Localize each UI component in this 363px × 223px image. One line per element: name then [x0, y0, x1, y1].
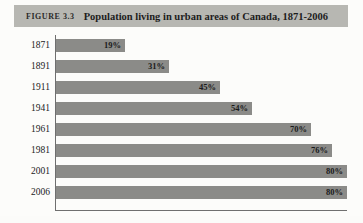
- category-label: 2006: [14, 182, 50, 203]
- bar: 70%: [56, 123, 311, 136]
- chart-plot-area: 187119%189131%191145%194154%196170%19817…: [14, 33, 348, 215]
- bar-value-label: 45%: [199, 81, 216, 94]
- bar-value-label: 80%: [326, 186, 343, 199]
- bar: 80%: [56, 186, 347, 199]
- bar-value-label: 70%: [290, 123, 307, 136]
- figure-number-label: FIGURE 3.3: [26, 12, 75, 21]
- bar: 76%: [56, 144, 332, 157]
- bar: 45%: [56, 81, 220, 94]
- bar-row: 200680%: [14, 182, 348, 203]
- bar-row: 189131%: [14, 56, 348, 77]
- figure-title: Population living in urban areas of Cana…: [84, 11, 328, 22]
- page-edge: [0, 216, 363, 223]
- bar-value-label: 31%: [148, 60, 165, 73]
- bar-track: 31%: [56, 60, 347, 73]
- bar-track: 70%: [56, 123, 347, 136]
- bar-row: 200180%: [14, 161, 348, 182]
- bar-track: 80%: [56, 186, 347, 199]
- bar-track: 80%: [56, 165, 347, 178]
- bar-row: 198176%: [14, 140, 348, 161]
- bar-row: 187119%: [14, 35, 348, 56]
- category-label: 1981: [14, 140, 50, 161]
- bar-value-label: 54%: [231, 102, 248, 115]
- x-axis-line: [55, 210, 347, 211]
- category-label: 1941: [14, 98, 50, 119]
- figure-container: FIGURE 3.3 Population living in urban ar…: [0, 0, 363, 223]
- bar-track: 76%: [56, 144, 347, 157]
- bar-value-label: 80%: [326, 165, 343, 178]
- bar-row: 194154%: [14, 98, 348, 119]
- bar-track: 54%: [56, 102, 347, 115]
- category-label: 1911: [14, 77, 50, 98]
- bar-value-label: 19%: [104, 39, 121, 52]
- figure-caption-band: FIGURE 3.3 Population living in urban ar…: [14, 5, 348, 27]
- bar: 31%: [56, 60, 169, 73]
- category-label: 2001: [14, 161, 50, 182]
- category-label: 1891: [14, 56, 50, 77]
- category-label: 1961: [14, 119, 50, 140]
- bar-track: 45%: [56, 81, 347, 94]
- bar-row: 196170%: [14, 119, 348, 140]
- bar-value-label: 76%: [311, 144, 328, 157]
- bar-row: 191145%: [14, 77, 348, 98]
- bar: 54%: [56, 102, 252, 115]
- bar: 80%: [56, 165, 347, 178]
- bar-track: 19%: [56, 39, 347, 52]
- category-label: 1871: [14, 35, 50, 56]
- bar: 19%: [56, 39, 125, 52]
